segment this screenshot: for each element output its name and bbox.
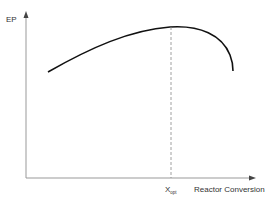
x-axis-arrow-icon <box>249 176 256 181</box>
chart: EP Reactor Conversion Xopt <box>0 0 272 199</box>
y-axis-arrow-icon <box>24 11 29 18</box>
y-axis-label: EP <box>6 15 17 24</box>
x-axis-label: Reactor Conversion <box>194 185 265 194</box>
x-opt-label: Xopt <box>165 185 177 195</box>
ep-curve <box>48 27 233 72</box>
